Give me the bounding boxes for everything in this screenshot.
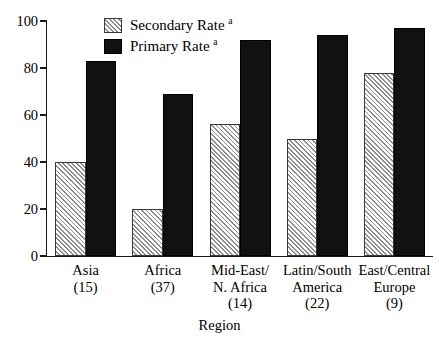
x-axis-label-line: (22): [273, 295, 362, 312]
x-axis-label-line: (15): [41, 279, 130, 296]
x-axis-label-line: Africa: [118, 262, 207, 279]
legend-label-secondary: Secondary Rate a: [130, 16, 233, 35]
y-axis-tick: [40, 255, 47, 256]
x-axis-label-line: (14): [195, 295, 284, 312]
x-axis-label-line: (37): [118, 279, 207, 296]
y-axis-tick-label: 20: [0, 202, 38, 217]
bar-secondary-0: [55, 162, 86, 256]
x-axis-label-line: Asia: [41, 262, 130, 279]
legend-swatch-primary-icon: [104, 39, 122, 54]
y-axis-tick-label: 60: [0, 108, 38, 123]
bar-primary-1: [163, 94, 194, 256]
y-axis-tick: [40, 114, 47, 115]
x-axis-label-line: (9): [350, 295, 439, 312]
x-axis-label-line: Mid-East/: [195, 262, 284, 279]
y-axis-tick-label: 0: [0, 249, 38, 264]
bar-primary-2: [240, 40, 271, 256]
x-axis-label-line: Latin/South: [273, 262, 362, 279]
legend-swatch-secondary-icon: [104, 18, 122, 33]
bar-primary-3: [317, 35, 348, 256]
x-axis-group-label: Africa(37): [118, 262, 207, 295]
bar-secondary-4: [364, 73, 395, 256]
y-axis-tick: [40, 20, 47, 21]
bar-primary-0: [86, 61, 117, 256]
bar-secondary-3: [287, 139, 318, 257]
bar-primary-4: [394, 28, 425, 256]
bar-chart: 020406080100 Asia(15)Africa(37)Mid-East/…: [0, 0, 439, 342]
x-axis-label-line: East/Central: [350, 262, 439, 279]
y-axis-tick: [40, 67, 47, 68]
x-axis-title: Region: [0, 318, 439, 333]
x-axis-group-label: East/CentralEurope(9): [350, 262, 439, 312]
x-axis-label-line: America: [273, 279, 362, 296]
bar-secondary-2: [210, 124, 241, 256]
y-axis-tick: [40, 208, 47, 209]
y-axis-tick-label: 100: [0, 14, 38, 29]
x-axis-label-line: N. Africa: [195, 279, 284, 296]
plot-area: [47, 21, 433, 256]
y-axis-tick-label: 80: [0, 61, 38, 76]
x-axis-line: [42, 256, 433, 257]
bar-secondary-1: [132, 209, 163, 256]
x-axis-group-label: Mid-East/N. Africa(14): [195, 262, 284, 312]
y-axis-tick: [40, 161, 47, 162]
legend-label-primary: Primary Rate a: [130, 37, 218, 56]
x-axis-group-label: Asia(15): [41, 262, 130, 295]
x-axis-label-line: Europe: [350, 279, 439, 296]
y-axis-tick-label: 40: [0, 155, 38, 170]
x-axis-group-label: Latin/SouthAmerica(22): [273, 262, 362, 312]
